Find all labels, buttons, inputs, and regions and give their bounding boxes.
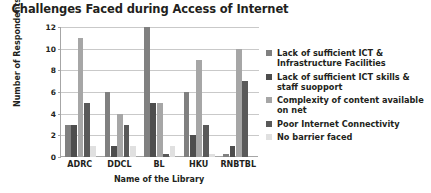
legend-label: Lack of sufficient ICT & Infrastructure … xyxy=(277,48,429,68)
legend-swatch-icon xyxy=(266,97,272,103)
bar xyxy=(130,146,136,157)
y-tick-label: 10 xyxy=(36,44,56,53)
legend-item: Lack of sufficient ICT skills & staff su… xyxy=(266,72,429,92)
bar xyxy=(78,38,84,157)
x-axis-tick-labels: ADRCDDCLBLHKURNBTBL xyxy=(60,160,258,172)
x-tick-label: RNBTBL xyxy=(220,160,256,169)
bar xyxy=(209,154,215,157)
y-tick-label: 2 xyxy=(36,131,56,140)
bar xyxy=(105,92,111,157)
x-tick-label: BL xyxy=(153,160,164,169)
y-tick-label: 4 xyxy=(36,109,56,118)
bar xyxy=(242,81,248,157)
x-tick-label: HKU xyxy=(189,160,208,169)
x-tick-label: ADRC xyxy=(67,160,92,169)
legend-item: Complexity of content available on net xyxy=(266,95,429,115)
legend-item: Lack of sufficient ICT & Infrastructure … xyxy=(266,48,429,68)
bar xyxy=(170,146,176,157)
legend-swatch-icon xyxy=(266,50,272,56)
legend-item: Poor Internet Connectivity xyxy=(266,119,429,129)
bar xyxy=(157,103,163,157)
y-tick-mark xyxy=(58,157,61,158)
bar-series-container xyxy=(61,27,259,157)
x-tick-label: DDCL xyxy=(107,160,131,169)
bar xyxy=(190,135,196,157)
bar xyxy=(203,125,209,158)
legend-swatch-icon xyxy=(266,134,272,140)
bar xyxy=(111,146,117,157)
y-axis-tick-labels: 024681012 xyxy=(36,27,56,157)
bar-chart: Challenges Faced during Access of Intern… xyxy=(0,0,431,193)
bar xyxy=(124,125,130,158)
bar xyxy=(117,114,123,157)
bar xyxy=(236,49,242,157)
legend-label: Poor Internet Connectivity xyxy=(277,119,399,129)
legend-label: Lack of sufficient ICT skills & staff su… xyxy=(277,72,429,92)
legend-swatch-icon xyxy=(266,74,272,80)
y-tick-label: 12 xyxy=(36,23,56,32)
bar xyxy=(84,103,90,157)
y-tick-label: 6 xyxy=(36,88,56,97)
bar xyxy=(230,146,236,157)
chart-title: Challenges Faced during Access of Intern… xyxy=(0,2,300,16)
x-axis-title: Name of the Library xyxy=(60,175,258,184)
bar xyxy=(71,125,77,158)
y-tick-label: 8 xyxy=(36,66,56,75)
bar xyxy=(196,60,202,158)
legend-label: No barrier faced xyxy=(277,132,352,142)
legend-label: Complexity of content available on net xyxy=(277,95,429,115)
bar xyxy=(163,154,169,157)
y-tick-label: 0 xyxy=(36,153,56,162)
bar xyxy=(223,154,229,157)
bar xyxy=(90,146,96,157)
bar xyxy=(144,27,150,157)
legend-swatch-icon xyxy=(266,121,272,127)
bar xyxy=(184,92,190,157)
bar xyxy=(150,103,156,157)
plot-area xyxy=(60,27,258,157)
y-axis-title: Number of Respondents xyxy=(13,0,22,108)
bar xyxy=(65,125,71,158)
chart-legend: Lack of sufficient ICT & Infrastructure … xyxy=(266,48,429,146)
legend-item: No barrier faced xyxy=(266,132,429,142)
